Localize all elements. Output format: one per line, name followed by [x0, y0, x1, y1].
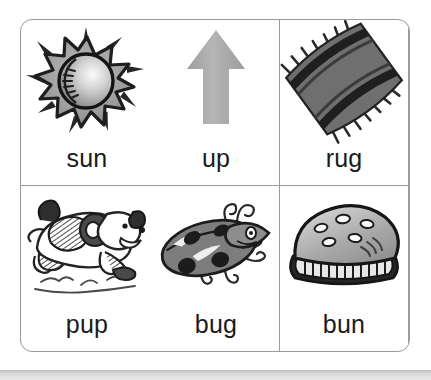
word-label: bun	[323, 312, 365, 337]
rug-icon	[280, 20, 408, 138]
word-label: up	[202, 146, 230, 171]
grid-cell-bun[interactable]: bun	[280, 186, 409, 352]
worksheet-page: sun up	[0, 0, 431, 380]
bun-icon	[280, 186, 408, 306]
page-bottom-strip	[0, 370, 431, 380]
grid-cell-pup[interactable]: pup	[21, 186, 153, 352]
grid-cell-up[interactable]: up	[153, 20, 280, 186]
word-label: rug	[326, 146, 363, 171]
grid-cell-sun[interactable]: sun	[21, 20, 153, 186]
grid-cell-rug[interactable]: rug	[280, 20, 409, 186]
picture-word-grid: sun up	[20, 19, 410, 352]
word-label: pup	[66, 312, 108, 337]
ladybug-icon	[153, 186, 279, 306]
up-arrow-icon	[153, 20, 279, 138]
word-label: bug	[195, 312, 237, 337]
grid-cell-bug[interactable]: bug	[153, 186, 280, 352]
word-label: sun	[67, 146, 108, 171]
sun-icon	[21, 20, 153, 138]
puppy-icon	[21, 186, 153, 306]
